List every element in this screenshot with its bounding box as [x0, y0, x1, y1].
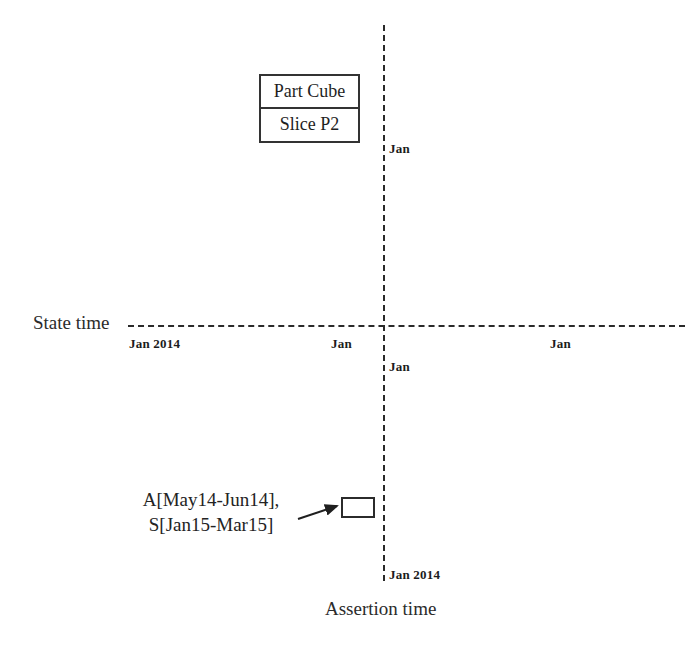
diagram-canvas: State time Assertion time Jan 2014 Jan J…	[0, 0, 699, 651]
part-cube-box: Part Cube Slice P2	[259, 74, 360, 143]
state-time-axis-label: State time	[33, 312, 110, 334]
tick-label-state-right: Jan	[550, 336, 571, 352]
assertion-time-axis-line	[383, 25, 385, 581]
annotation-line-1: A[May14-Jun14],	[126, 487, 296, 512]
data-region-annotation: A[May14-Jun14], S[Jan15-Mar15]	[126, 487, 296, 537]
tick-label-state-left: Jan 2014	[129, 336, 180, 352]
part-cube-slice-label: Slice P2	[261, 109, 358, 142]
state-time-axis-line	[128, 325, 685, 327]
tick-label-assertion-bottom: Jan 2014	[389, 567, 440, 583]
tick-label-assertion-top: Jan	[389, 141, 410, 157]
tick-label-assertion-mid: Jan	[389, 359, 410, 375]
part-cube-title: Part Cube	[261, 76, 358, 109]
tick-label-state-mid: Jan	[331, 336, 352, 352]
data-region-rectangle	[341, 497, 375, 518]
assertion-time-axis-label: Assertion time	[325, 598, 436, 620]
annotation-arrow-icon	[296, 496, 346, 526]
annotation-line-2: S[Jan15-Mar15]	[126, 512, 296, 537]
